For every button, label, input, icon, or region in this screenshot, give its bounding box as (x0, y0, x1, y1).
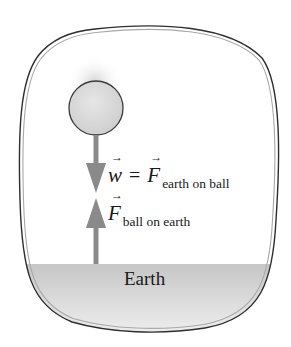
earth-label: Earth (124, 268, 165, 290)
reaction-arrow-up (86, 198, 106, 264)
weight-symbol: w (108, 163, 122, 188)
reaction-force-label: Fball on earth (108, 201, 190, 226)
ball (67, 56, 123, 135)
weight-arrow-down (86, 135, 106, 193)
subscript-ball-on-earth: ball on earth (123, 214, 190, 229)
weight-force-label: w=Fearth on ball (108, 163, 230, 188)
force-symbol-earth-on-ball: F (147, 163, 160, 188)
subscript-earth-on-ball: earth on ball (162, 176, 229, 191)
force-symbol-ball-on-earth: F (108, 201, 121, 226)
equals-sign: = (129, 164, 140, 186)
